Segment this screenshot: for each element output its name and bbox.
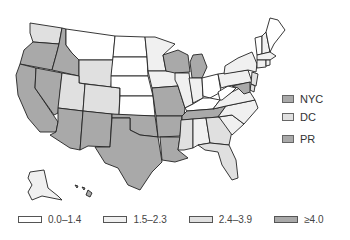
state-KS (119, 96, 155, 116)
inset-pr-swatch (282, 135, 294, 143)
state-WY (79, 60, 113, 87)
state-DE (250, 84, 255, 92)
state-SD (111, 57, 148, 76)
state-CT (257, 60, 266, 68)
inset-nyc-swatch (282, 95, 294, 103)
us-choropleth-map (0, 0, 350, 210)
state-CO (83, 84, 120, 115)
inset-pr: PR (282, 133, 315, 145)
state-VT (255, 36, 262, 55)
legend-swatch-3 (274, 216, 298, 223)
inset-pr-label: PR (300, 133, 315, 145)
state-RI (266, 60, 270, 66)
state-NM (80, 111, 112, 150)
state-HI (75, 185, 92, 197)
state-FL (198, 143, 238, 180)
legend-item-0: 0.0–1.4 (18, 214, 81, 225)
inset-dc-swatch (282, 113, 294, 121)
state-WA (30, 23, 62, 44)
state-NJ (251, 72, 258, 86)
state-ND (113, 36, 147, 57)
legend-label-0: 0.0–1.4 (48, 214, 81, 225)
legend-item-3: ≥4.0 (274, 214, 323, 225)
state-IA (148, 71, 178, 88)
legend-label-3: ≥4.0 (304, 214, 323, 225)
inset-nyc: NYC (282, 93, 323, 105)
state-WI (163, 50, 190, 73)
legend-item-1: 1.5–2.3 (103, 214, 166, 225)
legend-swatch-0 (18, 216, 42, 223)
inset-dc: DC (282, 111, 316, 123)
legend-item-2: 2.4–3.9 (189, 214, 252, 225)
state-AK (28, 170, 62, 200)
inset-nyc-label: NYC (300, 93, 323, 105)
legend-label-1: 1.5–2.3 (133, 214, 166, 225)
state-AR (156, 116, 182, 137)
legend-swatch-2 (189, 216, 213, 223)
state-ME (266, 18, 285, 52)
inset-dc-label: DC (300, 111, 316, 123)
state-MI (190, 54, 207, 78)
legend-label-2: 2.4–3.9 (219, 214, 252, 225)
map-legend: 0.0–1.4 1.5–2.3 2.4–3.9 ≥4.0 (18, 214, 324, 225)
legend-swatch-1 (103, 216, 127, 223)
state-NY (224, 52, 257, 74)
